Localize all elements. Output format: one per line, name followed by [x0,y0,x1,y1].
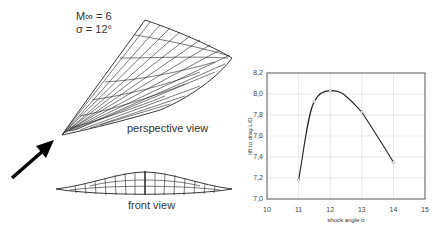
svg-text:7,0: 7,0 [253,195,263,202]
svg-text:15: 15 [421,206,429,213]
svg-text:7,6: 7,6 [253,132,263,139]
svg-text:12: 12 [326,206,334,213]
perspective-view-drawing: 7,0 7,2 7,4 7,6 7,8 8,0 8,2 10 11 12 13 … [0,0,440,236]
svg-text:8,2: 8,2 [253,69,263,76]
perspective-view-caption: perspective view [127,122,208,134]
svg-text:7,8: 7,8 [253,111,263,118]
front-view-drawing [56,171,232,195]
x-axis-label: shock angle σ [327,217,365,223]
svg-text:7,2: 7,2 [253,174,263,181]
lift-to-drag-chart: 7,0 7,2 7,4 7,6 7,8 8,0 8,2 10 11 12 13 … [247,69,429,223]
flow-arrow-icon [12,140,54,178]
svg-text:13: 13 [358,206,366,213]
svg-text:10: 10 [263,206,271,213]
front-view-caption: front view [128,199,175,211]
svg-text:8,0: 8,0 [253,90,263,97]
svg-text:14: 14 [390,206,398,213]
svg-text:11: 11 [295,206,302,213]
svg-text:7,4: 7,4 [253,153,263,160]
y-axis-label: lift to drag L/D [247,117,253,155]
